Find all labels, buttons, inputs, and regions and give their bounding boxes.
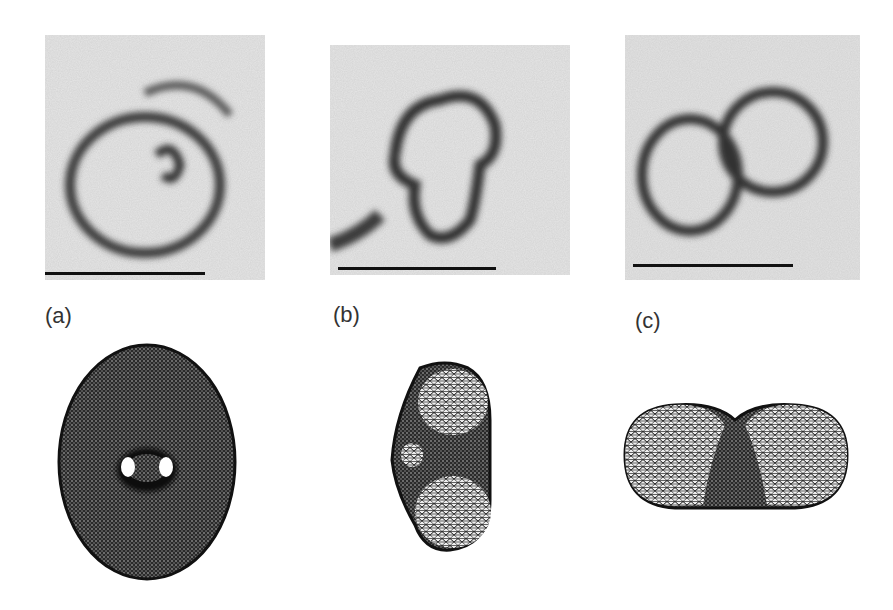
- scale-bar: [45, 272, 205, 275]
- panel-label-a: (a): [45, 303, 72, 329]
- micrograph-a: [45, 35, 265, 280]
- panel-label-c: (c): [635, 308, 661, 334]
- scale-bar: [633, 264, 793, 267]
- model-c: [615, 400, 855, 520]
- model-a: [55, 340, 240, 585]
- scale-bar: [338, 267, 496, 270]
- model-b: [390, 360, 500, 555]
- micrograph-b: [330, 45, 570, 275]
- micrograph-c: [625, 35, 860, 280]
- panel-label-b: (b): [333, 302, 360, 328]
